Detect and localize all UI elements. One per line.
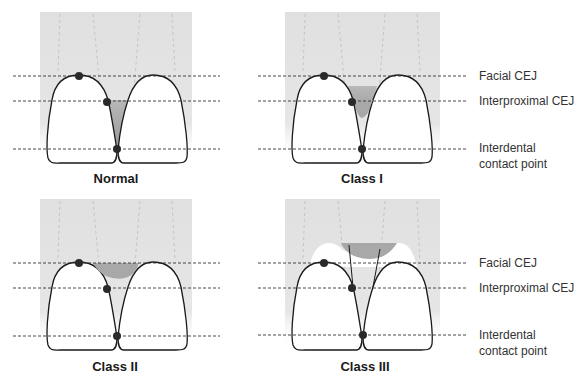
label-contact-line1: Interdental (479, 140, 547, 156)
label-contact-point-top: Interdental contact point (479, 140, 547, 172)
panel-class-1 (258, 12, 467, 163)
contact-point-dot (358, 145, 366, 153)
panel-title-class-3: Class III (340, 359, 389, 374)
label-interproximal-cej-bottom: Interproximal CEJ (479, 280, 574, 296)
panel-class-3 (258, 199, 467, 350)
interproximal-cej-dot (103, 285, 111, 293)
facial-cej-dot (75, 72, 83, 80)
label-contact-line2: contact point (479, 343, 547, 359)
label-facial-cej-bottom: Facial CEJ (479, 255, 537, 271)
panel-title-class-1: Class I (341, 171, 383, 186)
facial-cej-dot (320, 259, 328, 267)
facial-cej-dot (75, 259, 83, 267)
label-contact-line1: Interdental (479, 327, 547, 343)
panel-class-2 (13, 199, 220, 350)
interproximal-cej-dot (103, 98, 111, 106)
contact-point-dot (359, 331, 367, 339)
contact-point-dot (113, 145, 121, 153)
panel-title-normal: Normal (94, 171, 139, 186)
facial-cej-dot (320, 72, 328, 80)
contact-point-dot (113, 332, 121, 340)
interproximal-cej-dot (348, 284, 356, 292)
label-contact-line2: contact point (479, 156, 547, 172)
label-contact-point-bottom: Interdental contact point (479, 327, 547, 359)
panel-normal (13, 12, 220, 163)
panel-title-class-2: Class II (92, 359, 138, 374)
interproximal-cej-dot (348, 98, 356, 106)
label-interproximal-cej-top: Interproximal CEJ (479, 93, 574, 109)
label-facial-cej-top: Facial CEJ (479, 68, 537, 84)
gingival-recession-diagram: Normal Class I Class II Class III Facial… (0, 0, 580, 382)
